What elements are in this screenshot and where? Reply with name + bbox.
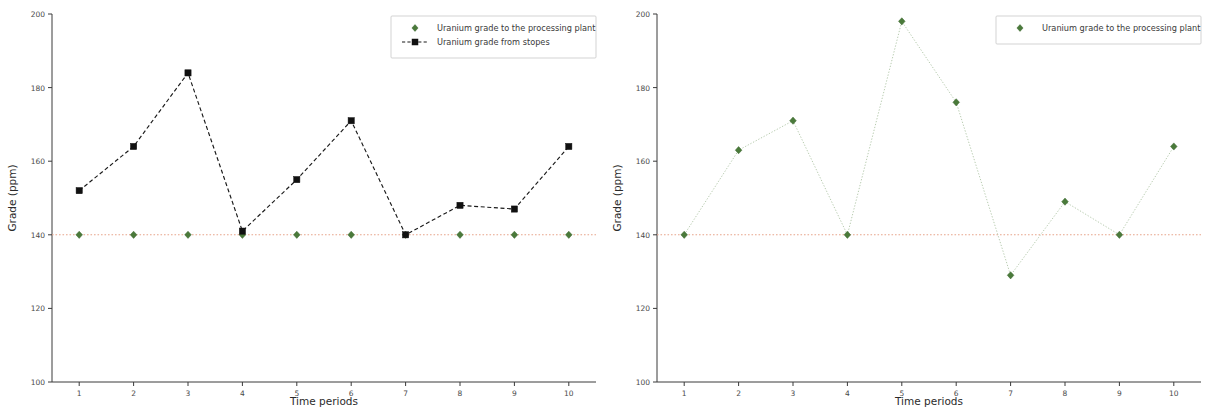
- y-tick-label: 100: [31, 378, 46, 387]
- diamond-marker: [735, 147, 742, 154]
- y-tick-label: 200: [636, 10, 651, 19]
- left-series-group: [76, 70, 572, 239]
- figure-container: 100120140160180200 12345678910 Uranium g…: [0, 0, 1210, 410]
- diamond-marker: [681, 231, 688, 238]
- diamond-marker: [294, 231, 301, 238]
- x-tick-label: 2: [736, 389, 741, 398]
- x-tick-label: 4: [240, 389, 245, 398]
- left-y-axis-ticks: 100120140160180200: [31, 10, 52, 387]
- diamond-marker: [1171, 143, 1178, 150]
- square-marker: [294, 177, 300, 183]
- square-marker: [566, 143, 572, 149]
- x-tick-label: 7: [403, 389, 408, 398]
- square-marker: [412, 39, 418, 45]
- y-tick-label: 100: [636, 378, 651, 387]
- diamond-marker: [511, 231, 518, 238]
- x-tick-label: 10: [1169, 389, 1179, 398]
- x-tick-label: 3: [791, 389, 796, 398]
- diamond-marker: [185, 231, 192, 238]
- left-xaxis-title: Time periods: [289, 395, 358, 407]
- left-axis-spines: [52, 14, 596, 382]
- x-tick-label: 7: [1008, 389, 1013, 398]
- left-chart-svg: 100120140160180200 12345678910 Uranium g…: [0, 0, 605, 410]
- right-axis-spines: [657, 14, 1201, 382]
- y-tick-label: 160: [636, 157, 651, 166]
- diamond-marker: [457, 231, 464, 238]
- square-marker: [511, 206, 517, 212]
- x-tick-label: 9: [512, 389, 517, 398]
- x-tick-label: 9: [1117, 389, 1122, 398]
- y-tick-label: 120: [636, 304, 651, 313]
- legend-item-label[interactable]: Uranium grade to the processing plant: [1042, 23, 1201, 33]
- square-marker: [76, 188, 82, 194]
- x-tick-label: 4: [845, 389, 850, 398]
- diamond-marker: [844, 231, 851, 238]
- series-line-0: [684, 21, 1174, 275]
- y-tick-label: 160: [31, 157, 46, 166]
- x-tick-label: 3: [186, 389, 191, 398]
- y-tick-label: 140: [31, 231, 46, 240]
- diamond-marker: [348, 231, 355, 238]
- right-y-axis-ticks: 100120140160180200: [636, 10, 657, 387]
- left-chart-panel: 100120140160180200 12345678910 Uranium g…: [0, 0, 605, 410]
- right-legend[interactable]: Uranium grade to the processing plant: [996, 16, 1201, 44]
- x-tick-label: 8: [1063, 389, 1068, 398]
- diamond-marker: [76, 231, 83, 238]
- diamond-marker: [1116, 231, 1123, 238]
- square-marker: [239, 228, 245, 234]
- x-tick-label: 10: [564, 389, 574, 398]
- right-chart-panel: 100120140160180200 12345678910 Uranium g…: [605, 0, 1210, 410]
- square-marker: [457, 202, 463, 208]
- left-yaxis-title: Grade (ppm): [6, 164, 18, 231]
- square-marker: [185, 70, 191, 76]
- right-chart-svg: 100120140160180200 12345678910 Uranium g…: [605, 0, 1210, 410]
- legend-item-label[interactable]: Uranium grade from stopes: [437, 37, 550, 47]
- right-yaxis-title: Grade (ppm): [611, 164, 623, 231]
- x-tick-label: 1: [77, 389, 82, 398]
- diamond-marker: [899, 18, 906, 25]
- series-line-1: [79, 73, 569, 235]
- x-tick-label: 8: [458, 389, 463, 398]
- square-marker: [131, 143, 137, 149]
- square-marker: [348, 118, 354, 124]
- y-tick-label: 120: [31, 304, 46, 313]
- right-series-group: [681, 18, 1177, 279]
- diamond-marker: [1007, 272, 1014, 279]
- y-tick-label: 180: [636, 84, 651, 93]
- legend-item-label[interactable]: Uranium grade to the processing plant: [437, 23, 596, 33]
- y-tick-label: 180: [31, 84, 46, 93]
- square-marker: [403, 232, 409, 238]
- x-tick-label: 1: [682, 389, 687, 398]
- y-tick-label: 140: [636, 231, 651, 240]
- diamond-marker: [566, 231, 573, 238]
- right-xaxis-title: Time periods: [894, 395, 963, 407]
- left-legend[interactable]: Uranium grade to the processing plantUra…: [391, 16, 596, 58]
- diamond-marker: [790, 117, 797, 124]
- diamond-marker: [953, 99, 960, 106]
- y-tick-label: 200: [31, 10, 46, 19]
- diamond-marker: [130, 231, 137, 238]
- x-tick-label: 2: [131, 389, 136, 398]
